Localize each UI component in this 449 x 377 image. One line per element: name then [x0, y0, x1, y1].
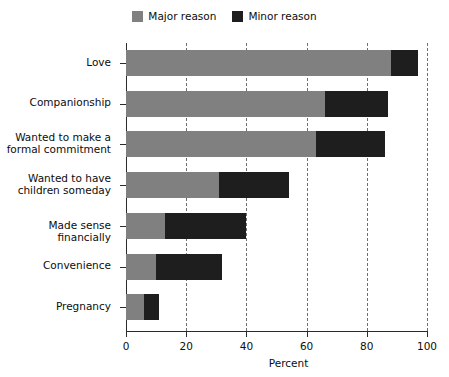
legend-label-minor: Minor reason	[248, 11, 316, 22]
bar-segment	[126, 294, 144, 320]
bar-segment	[391, 50, 418, 76]
bar-segment	[219, 172, 288, 198]
x-axis-tick	[367, 331, 368, 337]
y-axis-tick	[120, 104, 126, 105]
bar-segment	[126, 91, 325, 117]
bar-segment	[126, 172, 219, 198]
y-axis-tick	[120, 307, 126, 308]
y-axis-tick	[120, 267, 126, 268]
bar-segment	[325, 91, 388, 117]
x-axis-tick	[126, 331, 127, 337]
x-axis-tick-label: 80	[360, 340, 373, 352]
x-axis-tick-label: 40	[240, 340, 253, 352]
legend-item-minor: Minor reason	[232, 11, 316, 22]
bar-segment	[316, 131, 385, 157]
bar-segment	[126, 254, 156, 280]
x-axis-title-text: Percent	[269, 357, 309, 369]
bar-segment	[126, 131, 316, 157]
bar-segment	[156, 254, 222, 280]
y-axis-label: Convenience	[43, 259, 111, 272]
x-axis-tick-label: 100	[417, 340, 437, 352]
x-axis-tick	[246, 331, 247, 337]
bar-segment	[126, 213, 165, 239]
plot-area	[126, 43, 427, 331]
legend-swatch-major-icon	[132, 11, 143, 22]
bar-segment	[126, 50, 391, 76]
x-axis-tick	[307, 331, 308, 337]
x-axis-tick-label: 20	[180, 340, 193, 352]
y-axis-label: Love	[86, 56, 111, 69]
x-axis-tick-label: 0	[123, 340, 130, 352]
legend-label-major: Major reason	[148, 11, 216, 22]
legend-swatch-minor-icon	[232, 11, 243, 22]
bar-segment	[144, 294, 159, 320]
gridline-80	[367, 43, 368, 331]
y-axis-label: Wanted to make a formal commitment	[7, 131, 111, 156]
y-axis-tick	[120, 226, 126, 227]
y-axis-tick	[120, 144, 126, 145]
x-axis-tick	[186, 331, 187, 337]
legend-item-major: Major reason	[132, 11, 216, 22]
y-axis-label: Wanted to have children someday	[18, 172, 111, 197]
x-axis-line	[126, 331, 428, 332]
bar-segment	[165, 213, 246, 239]
y-axis-label: Made sense financially	[0, 219, 111, 244]
x-axis-tick	[427, 331, 428, 337]
chart-legend: Major reason Minor reason	[0, 11, 449, 22]
y-axis-label: Companionship	[30, 96, 111, 109]
gridline-100	[427, 43, 428, 331]
x-axis-title: Percent	[0, 357, 449, 369]
gridline-60	[307, 43, 308, 331]
x-axis-tick-label: 60	[300, 340, 313, 352]
y-axis-label: Pregnancy	[56, 300, 111, 313]
y-axis-tick	[120, 63, 126, 64]
y-axis-tick	[120, 185, 126, 186]
